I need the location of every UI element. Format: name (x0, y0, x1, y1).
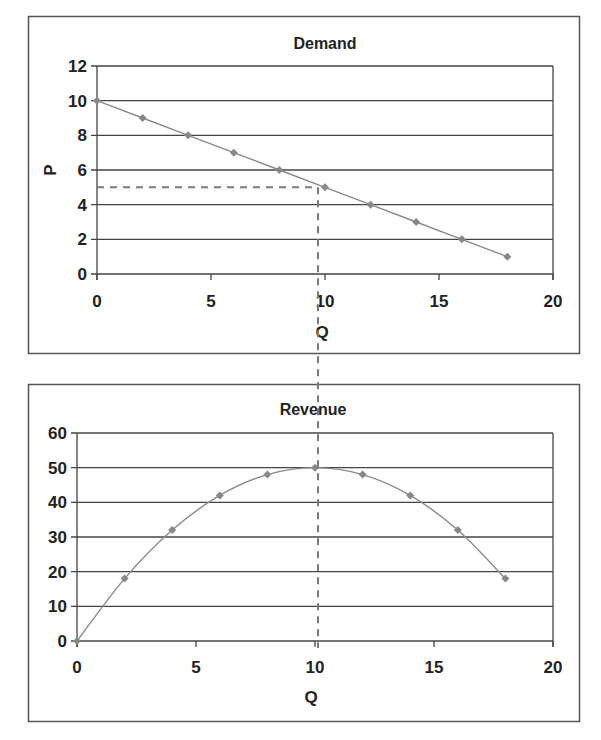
x-tick-label: 5 (191, 658, 200, 677)
y-tick-label: 2 (78, 230, 87, 249)
x-tick-label: 10 (306, 658, 325, 677)
x-tick-label: 5 (206, 292, 215, 311)
y-tick-label: 40 (48, 493, 67, 512)
y-tick-label: 6 (78, 161, 87, 180)
revenue-x-axis-label: Q (304, 688, 317, 707)
x-tick-label: 15 (430, 292, 449, 311)
y-tick-label: 50 (48, 459, 67, 478)
revenue-chart-title: Revenue (280, 401, 347, 418)
demand-chart-title: Demand (293, 35, 356, 52)
y-tick-label: 8 (78, 126, 87, 145)
revenue-chart-frame (29, 385, 580, 722)
y-tick-label: 0 (78, 265, 87, 284)
x-tick-label: 0 (72, 658, 81, 677)
y-tick-label: 4 (78, 196, 88, 215)
y-tick-label: 60 (48, 424, 67, 443)
y-tick-label: 20 (48, 563, 67, 582)
y-tick-label: 12 (68, 57, 87, 76)
chart-canvas: Demand 024681012 05101520 P Q Revenue 01… (0, 0, 601, 740)
demand-chart-frame (29, 17, 580, 354)
y-tick-label: 10 (68, 92, 87, 111)
x-tick-label: 20 (544, 658, 563, 677)
x-tick-label: 20 (544, 292, 563, 311)
x-tick-label: 0 (92, 292, 101, 311)
y-tick-label: 30 (48, 528, 67, 547)
y-tick-label: 0 (58, 632, 67, 651)
x-tick-label: 15 (425, 658, 444, 677)
y-tick-label: 10 (48, 597, 67, 616)
demand-y-axis-label: P (41, 164, 60, 175)
